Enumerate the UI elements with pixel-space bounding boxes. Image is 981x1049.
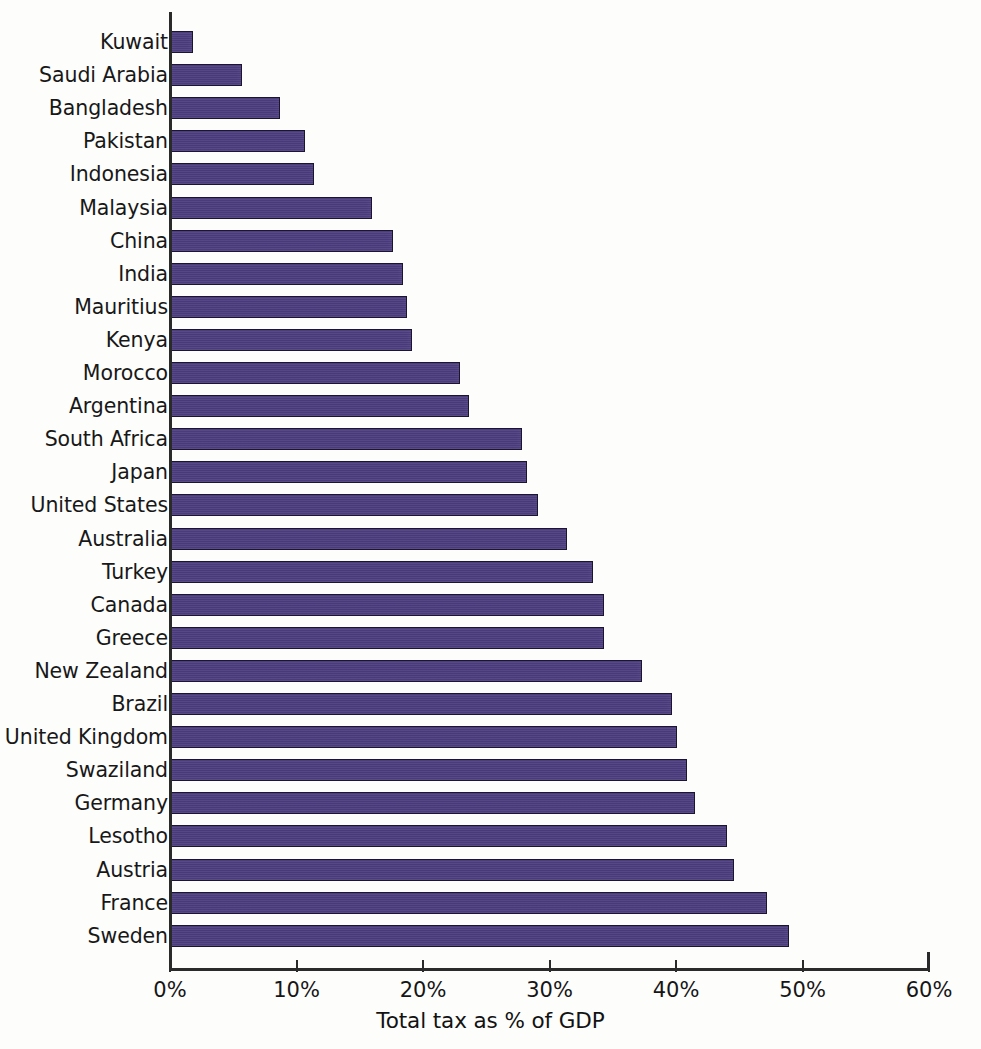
bar-row: Swaziland bbox=[0, 754, 981, 787]
bar-row: Canada bbox=[0, 588, 981, 621]
bar-row: Saudi Arabia bbox=[0, 59, 981, 92]
x-axis-tick-label: 20% bbox=[400, 978, 447, 1002]
bar-category-label: India bbox=[118, 263, 168, 284]
bar bbox=[170, 925, 789, 947]
bar-row: Greece bbox=[0, 621, 981, 654]
bar bbox=[170, 528, 567, 550]
bar bbox=[170, 64, 242, 86]
bar bbox=[170, 825, 727, 847]
bar bbox=[170, 594, 604, 616]
x-axis-tick bbox=[549, 960, 551, 972]
bar-row: Lesotho bbox=[0, 820, 981, 853]
bar-category-label: Sweden bbox=[88, 925, 168, 946]
bar-row: South Africa bbox=[0, 423, 981, 456]
bar-category-label: Swaziland bbox=[66, 760, 168, 781]
bar-row: United States bbox=[0, 489, 981, 522]
bar-category-label: New Zealand bbox=[34, 661, 168, 682]
bar bbox=[170, 296, 407, 318]
bar-row: Morocco bbox=[0, 357, 981, 390]
bar-row: Kuwait bbox=[0, 26, 981, 59]
bar-category-label: Malaysia bbox=[79, 197, 168, 218]
bar-row: Kenya bbox=[0, 323, 981, 356]
bar bbox=[170, 428, 522, 450]
bar-row: Indonesia bbox=[0, 158, 981, 191]
x-axis-title: Total tax as % of GDP bbox=[0, 1008, 981, 1033]
bar-row: Argentina bbox=[0, 390, 981, 423]
bar-category-label: United States bbox=[30, 495, 168, 516]
bar-category-label: Morocco bbox=[83, 363, 168, 384]
bar-row: Austria bbox=[0, 853, 981, 886]
x-axis-tick bbox=[422, 960, 424, 972]
bar-row: Brazil bbox=[0, 688, 981, 721]
x-axis-tick bbox=[928, 960, 930, 972]
bar-row: Sweden bbox=[0, 919, 981, 952]
x-axis-tick-label: 0% bbox=[153, 978, 186, 1002]
bar-row: Malaysia bbox=[0, 191, 981, 224]
bar-category-label: Kuwait bbox=[100, 32, 168, 53]
x-axis-tick bbox=[169, 960, 171, 972]
bar-row: Bangladesh bbox=[0, 92, 981, 125]
bar bbox=[170, 627, 604, 649]
bar-category-label: Brazil bbox=[111, 694, 168, 715]
bar-category-label: Kenya bbox=[106, 330, 168, 351]
y-axis-line bbox=[169, 12, 172, 970]
bar-row: Mauritius bbox=[0, 290, 981, 323]
x-axis-tick-label: 40% bbox=[653, 978, 700, 1002]
bar bbox=[170, 726, 677, 748]
bar-category-label: Austria bbox=[96, 859, 168, 880]
x-axis-tick bbox=[675, 960, 677, 972]
bar bbox=[170, 859, 734, 881]
bar bbox=[170, 31, 193, 53]
bar bbox=[170, 461, 527, 483]
tax-gdp-bar-chart: KuwaitSaudi ArabiaBangladeshPakistanIndo… bbox=[0, 0, 981, 1049]
bar-row: United Kingdom bbox=[0, 721, 981, 754]
bar bbox=[170, 759, 687, 781]
bar bbox=[170, 792, 695, 814]
bar-row: China bbox=[0, 224, 981, 257]
bar bbox=[170, 230, 393, 252]
bar-row: France bbox=[0, 886, 981, 919]
bar-row: India bbox=[0, 257, 981, 290]
bar-category-label: Saudi Arabia bbox=[39, 65, 168, 86]
bar-row: Japan bbox=[0, 456, 981, 489]
bar-category-label: China bbox=[110, 230, 168, 251]
x-axis-tick-label: 10% bbox=[273, 978, 320, 1002]
bar-category-label: Germany bbox=[74, 793, 168, 814]
bar-category-label: Mauritius bbox=[74, 297, 168, 318]
bar-row: Pakistan bbox=[0, 125, 981, 158]
x-axis-tick-label: 60% bbox=[906, 978, 953, 1002]
bar-row: New Zealand bbox=[0, 654, 981, 687]
x-axis-tick-label: 50% bbox=[779, 978, 826, 1002]
bar-category-label: Pakistan bbox=[83, 131, 168, 152]
bar bbox=[170, 362, 460, 384]
bar-category-label: Turkey bbox=[102, 561, 168, 582]
bar-category-label: France bbox=[100, 892, 168, 913]
bar-category-label: United Kingdom bbox=[5, 727, 168, 748]
bar-row: Turkey bbox=[0, 555, 981, 588]
bar-category-label: Argentina bbox=[69, 396, 168, 417]
x-axis-tick bbox=[802, 960, 804, 972]
bar bbox=[170, 329, 412, 351]
bar-category-label: Greece bbox=[96, 628, 168, 649]
bar-category-label: Australia bbox=[78, 528, 168, 549]
bar bbox=[170, 197, 372, 219]
bar-category-label: Canada bbox=[91, 594, 168, 615]
bar bbox=[170, 892, 767, 914]
bar bbox=[170, 494, 538, 516]
bar-row: Australia bbox=[0, 522, 981, 555]
x-axis-tick-label: 30% bbox=[526, 978, 573, 1002]
bar-category-label: South Africa bbox=[45, 429, 168, 450]
bar-rows-container: KuwaitSaudi ArabiaBangladeshPakistanIndo… bbox=[0, 0, 981, 968]
bar bbox=[170, 693, 672, 715]
bar bbox=[170, 395, 469, 417]
bar-category-label: Indonesia bbox=[70, 164, 168, 185]
bar bbox=[170, 660, 642, 682]
x-axis-tick bbox=[296, 960, 298, 972]
bar bbox=[170, 263, 403, 285]
bar-category-label: Bangladesh bbox=[49, 98, 168, 119]
bar-category-label: Japan bbox=[111, 462, 168, 483]
bar-row: Germany bbox=[0, 787, 981, 820]
bar bbox=[170, 97, 280, 119]
bar-category-label: Lesotho bbox=[88, 826, 168, 847]
bar bbox=[170, 163, 314, 185]
